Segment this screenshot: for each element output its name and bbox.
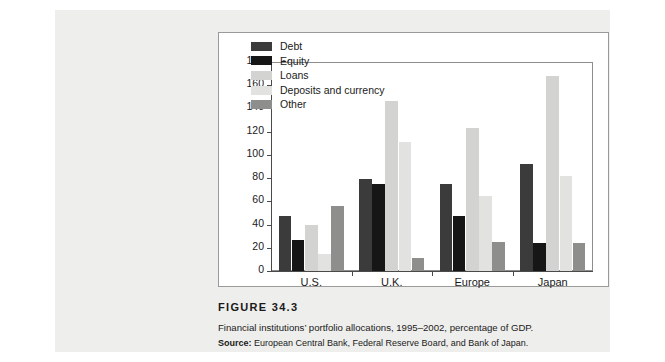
chart-frame: % 020406080100120140160180 U.S.U.K.Europ… <box>218 32 609 287</box>
bar-equity-japan <box>533 243 546 271</box>
legend-swatch-icon <box>251 71 272 80</box>
bar-loans-u-k- <box>385 101 398 271</box>
bar-loans-u-s- <box>305 225 318 271</box>
bar-other-u-k- <box>412 258 425 271</box>
legend-label: Equity <box>280 56 309 67</box>
figure-description: Financial institutions’ portfolio alloca… <box>218 322 609 333</box>
bar-loans-japan <box>546 76 559 271</box>
bar-loans-europe <box>466 128 479 271</box>
y-tick-mark <box>267 155 271 156</box>
legend-swatch-icon <box>251 86 272 95</box>
bar-other-europe <box>492 242 505 271</box>
y-tick-mark <box>267 132 271 133</box>
figure-number-title: FIGURE 34.3 <box>218 301 609 313</box>
bar-debt-u-k- <box>359 179 372 271</box>
figure-page: % 020406080100120140160180 U.S.U.K.Europ… <box>55 10 610 352</box>
source-text: European Central Bank, Federal Reserve B… <box>254 338 528 348</box>
bar-debt-u-s- <box>279 216 292 271</box>
y-tick-label: 0 <box>258 264 264 275</box>
y-tick-mark <box>267 201 271 202</box>
figure-source-line: Source: European Central Bank, Federal R… <box>218 338 609 348</box>
x-axis-separator-tick <box>432 271 433 276</box>
figure-caption: FIGURE 34.3 Financial institutions’ port… <box>218 301 609 348</box>
x-group-label-europe: Europe <box>455 276 490 288</box>
y-tick-label: 120 <box>246 125 264 136</box>
bar-equity-europe <box>453 216 466 271</box>
bar-debt-europe <box>440 184 453 271</box>
bar-other-japan <box>573 243 586 271</box>
legend-label: Debt <box>280 41 302 52</box>
y-tick-label: 80 <box>252 171 264 182</box>
y-tick-label: 60 <box>252 194 264 205</box>
legend-label: Other <box>280 99 306 110</box>
y-tick-label: 20 <box>252 241 264 252</box>
bar-equity-u-s- <box>292 240 305 271</box>
y-tick-label: 100 <box>246 148 264 159</box>
legend-item-deposits-and-currency: Deposits and currency <box>251 83 384 98</box>
legend-item-loans: Loans <box>251 68 384 83</box>
bar-other-u-s- <box>331 206 344 271</box>
source-label: Source: <box>218 338 252 348</box>
legend-item-equity: Equity <box>251 54 384 69</box>
legend-item-other: Other <box>251 97 384 112</box>
bar-deposits-and-currency-u-k- <box>399 142 412 271</box>
x-axis <box>271 271 593 272</box>
legend-swatch-icon <box>251 56 272 65</box>
x-group-label-japan: Japan <box>538 276 568 288</box>
y-tick-mark <box>267 225 271 226</box>
bar-equity-u-k- <box>372 184 385 271</box>
x-axis-separator-tick <box>513 271 514 276</box>
y-tick-mark <box>267 248 271 249</box>
bar-deposits-and-currency-europe <box>479 196 492 271</box>
x-group-label-u-k-: U.K. <box>381 276 402 288</box>
bar-deposits-and-currency-japan <box>560 176 573 271</box>
bar-deposits-and-currency-u-s- <box>318 254 331 271</box>
legend-swatch-icon <box>251 100 272 109</box>
x-group-label-u-s-: U.S. <box>301 276 322 288</box>
bar-debt-japan <box>520 164 533 271</box>
legend-label: Deposits and currency <box>280 85 384 96</box>
y-tick-mark <box>267 178 271 179</box>
x-axis-separator-tick <box>352 271 353 276</box>
legend-swatch-icon <box>251 42 272 51</box>
chart-legend: DebtEquityLoansDeposits and currencyOthe… <box>251 39 384 112</box>
y-tick-label: 40 <box>252 218 264 229</box>
legend-label: Loans <box>280 70 309 81</box>
legend-item-debt: Debt <box>251 39 384 54</box>
